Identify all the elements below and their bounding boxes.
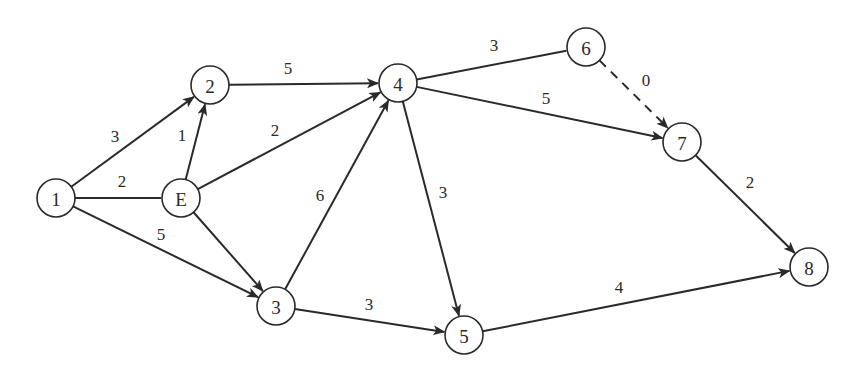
node-label: 4 bbox=[393, 74, 403, 95]
edge-weight-4-7: 5 bbox=[542, 89, 551, 108]
edge-4-5 bbox=[403, 101, 459, 315]
edge-6-7 bbox=[600, 60, 668, 128]
edge-weight-E-4: 2 bbox=[271, 121, 280, 140]
edge-4-7 bbox=[417, 87, 663, 138]
edge-5-8 bbox=[483, 271, 790, 331]
edge-E-2 bbox=[186, 104, 205, 179]
edge-weight-4-5: 3 bbox=[439, 183, 448, 202]
edge-E-3 bbox=[194, 212, 263, 291]
node-label: 2 bbox=[205, 76, 215, 97]
node-1: 1 bbox=[37, 179, 75, 217]
node-label: 3 bbox=[271, 297, 281, 318]
node-label: 5 bbox=[459, 326, 469, 347]
node-8: 8 bbox=[790, 248, 828, 286]
node-2: 2 bbox=[191, 66, 229, 104]
edge-weight-1-3: 5 bbox=[157, 225, 166, 244]
node-label: 1 bbox=[51, 189, 61, 210]
edge-weight-5-8: 4 bbox=[615, 278, 624, 297]
edge-weight-1-E: 2 bbox=[118, 172, 127, 191]
edge-weight-6-7: 0 bbox=[642, 71, 651, 90]
node-4: 4 bbox=[379, 64, 417, 102]
edge-weight-4-6: 3 bbox=[490, 36, 499, 55]
network-diagram: 32512563353024 1E2345678 bbox=[0, 0, 861, 386]
edge-E-4 bbox=[198, 92, 381, 189]
node-label: 8 bbox=[804, 258, 814, 279]
node-6: 6 bbox=[567, 28, 605, 66]
edge-weight-1-2: 3 bbox=[111, 127, 120, 146]
edge-weight-7-8: 2 bbox=[746, 173, 755, 192]
node-label: E bbox=[175, 189, 187, 210]
node-E: E bbox=[162, 179, 200, 217]
edge-1-3 bbox=[73, 206, 258, 297]
edge-weight-2-4: 5 bbox=[284, 59, 293, 78]
edge-weight-3-4: 6 bbox=[316, 186, 325, 205]
edge-weight-3-5: 3 bbox=[365, 295, 374, 314]
node-label: 7 bbox=[677, 133, 687, 154]
edge-1-2 bbox=[71, 97, 194, 187]
edge-7-8 bbox=[696, 155, 795, 253]
node-label: 6 bbox=[581, 38, 591, 59]
node-7: 7 bbox=[663, 123, 701, 161]
node-5: 5 bbox=[445, 316, 483, 354]
edge-3-4 bbox=[285, 101, 388, 290]
edge-4-6 bbox=[417, 51, 567, 80]
edge-weight-E-2: 1 bbox=[178, 126, 187, 145]
edge-2-4 bbox=[229, 83, 378, 85]
node-3: 3 bbox=[257, 287, 295, 325]
